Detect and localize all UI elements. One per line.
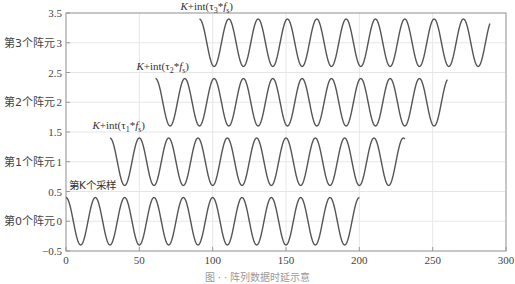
x-tick-label: 100 — [204, 254, 221, 266]
x-tick-label: 250 — [424, 254, 441, 266]
x-tick-label: 50 — [134, 254, 146, 266]
row-label: 第3个阵元 — [4, 36, 55, 50]
y-tick-label: 3 — [57, 37, 63, 49]
y-tick-label: 1 — [57, 156, 63, 168]
row-label: 第2个阵元 — [4, 95, 55, 109]
x-tick-label: 300 — [498, 254, 515, 266]
annotation: 第K个采样 — [69, 179, 116, 191]
x-tick-label: 0 — [63, 254, 69, 266]
y-tick-label: 2.5 — [48, 67, 62, 79]
x-tick-label: 150 — [278, 254, 295, 266]
y-tick-label: 3.5 — [48, 7, 62, 19]
y-tick-label: 0.5 — [48, 186, 62, 198]
row-label: 第1个阵元 — [4, 155, 55, 169]
x-tick-label: 200 — [351, 254, 368, 266]
y-tick-label: −0.5 — [42, 245, 62, 257]
row-label: 第0个阵元 — [4, 214, 55, 228]
y-tick-label: 2 — [57, 96, 63, 108]
y-tick-label: 0 — [57, 215, 63, 227]
y-tick-label: 1.5 — [48, 126, 62, 138]
figure-caption: 图 · · 阵列数据时延示意 — [0, 269, 515, 284]
